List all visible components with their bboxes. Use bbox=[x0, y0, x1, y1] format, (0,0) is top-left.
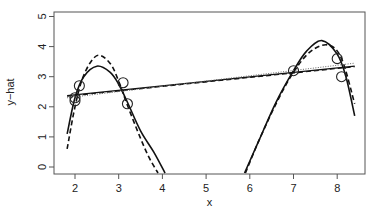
y-tick-label: 1 bbox=[36, 134, 48, 140]
x-tick-label: 6 bbox=[247, 182, 253, 194]
x-tick-label: 8 bbox=[334, 182, 340, 194]
x-tick-label: 3 bbox=[116, 182, 122, 194]
y-tick-label: 0 bbox=[36, 164, 48, 170]
series-poly-fit-dashed bbox=[67, 55, 158, 173]
series-poly-fit-solid-right bbox=[245, 41, 355, 173]
y-tick-label: 4 bbox=[36, 44, 48, 50]
y-tick-label: 2 bbox=[36, 104, 48, 110]
x-tick-label: 2 bbox=[72, 182, 78, 194]
series-linear-fit-dashed bbox=[67, 67, 355, 96]
series-linear-fit-solid bbox=[67, 66, 355, 95]
x-tick-label: 4 bbox=[159, 182, 165, 194]
x-tick-label: 7 bbox=[290, 182, 296, 194]
series-layer bbox=[67, 41, 355, 173]
y-axis-label: y−hat bbox=[4, 78, 16, 105]
chart: 2345678 012345 x y−hat bbox=[0, 0, 379, 213]
x-axis: 2345678 bbox=[72, 174, 340, 194]
x-tick-label: 5 bbox=[203, 182, 209, 194]
y-tick-label: 3 bbox=[36, 74, 48, 80]
data-point bbox=[337, 72, 347, 82]
x-axis-label: x bbox=[207, 196, 213, 208]
y-axis: 012345 bbox=[36, 13, 54, 170]
y-tick-label: 5 bbox=[36, 13, 48, 19]
